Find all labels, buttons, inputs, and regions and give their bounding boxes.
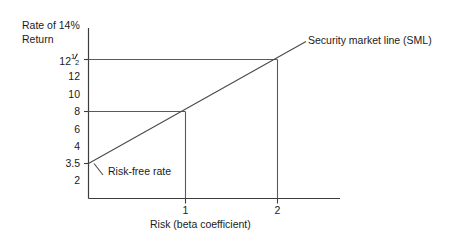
y-tick-label-2: 2 bbox=[32, 174, 80, 187]
y-axis-title-line2: Return bbox=[22, 32, 80, 46]
y-axis-ticks bbox=[84, 60, 89, 164]
x-tick-label-1: 1 bbox=[170, 204, 201, 217]
fraction-denominator: 2 bbox=[75, 56, 79, 69]
risk-free-rate-leader-line bbox=[94, 164, 103, 176]
y-tick-label-12half: 1212 bbox=[32, 53, 80, 68]
sml-annotation-label: Security market line (SML) bbox=[308, 34, 432, 47]
x-tick-label-2: 2 bbox=[262, 204, 293, 217]
risk-free-rate-annotation-label: Risk-free rate bbox=[108, 165, 171, 178]
security-market-line-chart: Rate of 14% Return 1212 12 10 8 6 4 3.5 … bbox=[0, 0, 452, 243]
y-tick-label-3point5: 3.5 bbox=[32, 157, 80, 170]
x-axis-ticks bbox=[186, 199, 278, 204]
y-tick-label-6: 6 bbox=[32, 123, 80, 136]
y-axis-title-line1: Rate of 14% bbox=[22, 19, 80, 31]
fraction-one-half: 12 bbox=[71, 53, 80, 65]
y-tick-label-8: 8 bbox=[32, 105, 80, 118]
y-axis-title: Rate of 14% Return bbox=[22, 18, 80, 46]
y-tick-label-10: 10 bbox=[32, 88, 80, 101]
y-tick-label-12: 12 bbox=[32, 70, 80, 83]
y-tick-label-12half-whole: 12 bbox=[59, 55, 71, 67]
x-axis-title: Risk (beta coefficient) bbox=[150, 218, 251, 231]
y-tick-label-4: 4 bbox=[32, 140, 80, 153]
